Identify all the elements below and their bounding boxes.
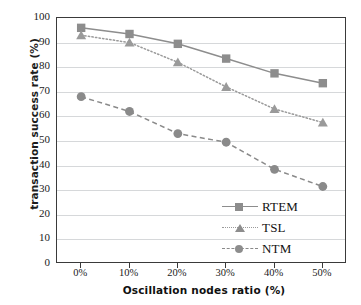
- legend-marker: [235, 245, 243, 253]
- data-point-rtem-10%: [125, 30, 133, 38]
- y-tick-label: 100: [10, 11, 50, 22]
- legend-label: TSL: [258, 220, 286, 236]
- legend-marker: [235, 203, 243, 211]
- y-tick-label: 10: [10, 232, 50, 243]
- x-tick-label: 50%: [299, 267, 345, 278]
- x-tick-label: 30%: [202, 267, 248, 278]
- triangle-marker: [222, 221, 258, 235]
- y-tick-label: 70: [10, 85, 50, 96]
- data-point-tsl-10%: [125, 38, 135, 47]
- data-point-rtem-30%: [222, 54, 230, 62]
- data-point-tsl-40%: [270, 104, 280, 113]
- legend-item-rtem[interactable]: RTEM: [222, 196, 342, 217]
- circle-marker: [222, 242, 258, 256]
- line-chart: transaction success rate (%) 01020304050…: [0, 0, 361, 305]
- y-tick-label: 30: [10, 183, 50, 194]
- x-tick-label: 10%: [106, 267, 152, 278]
- legend-label: NTM: [258, 241, 292, 257]
- legend-label: RTEM: [258, 199, 298, 215]
- legend-item-ntm[interactable]: NTM: [222, 238, 342, 259]
- series-line-tsl: [81, 35, 323, 122]
- data-point-rtem-50%: [319, 79, 327, 87]
- data-point-rtem-40%: [270, 69, 278, 77]
- data-point-rtem-20%: [174, 40, 182, 48]
- x-axis-title: Oscillation nodes ratio (%): [56, 284, 352, 296]
- y-tick-label: 90: [10, 36, 50, 47]
- series-line-ntm: [81, 97, 323, 187]
- y-tick-label: 60: [10, 109, 50, 120]
- series-line-rtem: [81, 28, 323, 83]
- data-point-ntm-40%: [270, 165, 279, 174]
- x-tick-label: 20%: [154, 267, 200, 278]
- legend-marker: [235, 224, 245, 232]
- chart-legend: RTEMTSLNTM: [222, 196, 342, 259]
- y-tick-label: 80: [10, 60, 50, 71]
- data-point-tsl-30%: [221, 82, 231, 91]
- y-tick-label: 40: [10, 159, 50, 170]
- data-point-ntm-50%: [318, 182, 327, 191]
- y-tick-label: 0: [10, 257, 50, 268]
- x-tick-label: 0%: [57, 267, 103, 278]
- y-tick-label: 20: [10, 208, 50, 219]
- data-point-ntm-0%: [77, 92, 86, 101]
- data-point-ntm-30%: [222, 138, 231, 147]
- legend-item-tsl[interactable]: TSL: [222, 217, 342, 238]
- x-tick-label: 40%: [251, 267, 297, 278]
- data-point-tsl-20%: [173, 57, 183, 66]
- data-point-ntm-20%: [173, 129, 182, 138]
- data-point-ntm-10%: [125, 107, 134, 116]
- square-marker: [222, 200, 258, 214]
- y-tick-label: 50: [10, 134, 50, 145]
